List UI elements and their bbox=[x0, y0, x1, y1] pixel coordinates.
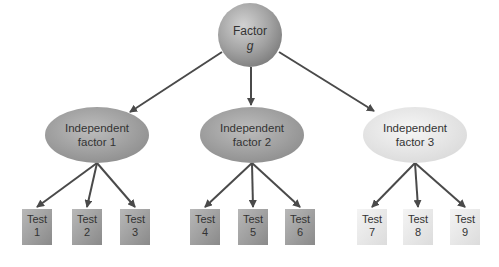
test-label-line2: 7 bbox=[369, 226, 375, 238]
factor-label-line2: factor 2 bbox=[233, 136, 271, 148]
test-label-line2: 8 bbox=[415, 226, 421, 238]
arrow-factor-3-to-test-9 bbox=[415, 163, 465, 207]
arrow-factor-3-to-test-7 bbox=[372, 163, 415, 207]
test-label-line1: Test bbox=[125, 213, 145, 225]
test-label-line2: 6 bbox=[297, 226, 303, 238]
test-label-line2: 1 bbox=[34, 226, 40, 238]
arrow-factor-1-to-test-3 bbox=[97, 163, 135, 207]
test-box-6: Test 6 bbox=[285, 209, 315, 245]
test-box-1: Test 1 bbox=[22, 209, 52, 245]
test-label-line1: Test bbox=[408, 213, 428, 225]
test-label-line1: Test bbox=[195, 213, 215, 225]
test-box-7: Test 7 bbox=[357, 209, 387, 245]
arrow-factor-2-to-test-6 bbox=[252, 163, 300, 207]
arrow-factor-2-to-test-4 bbox=[205, 163, 252, 207]
test-label-line1: Test bbox=[243, 213, 263, 225]
test-box-3: Test 3 bbox=[120, 209, 150, 245]
factor-label-line2: factor 1 bbox=[78, 136, 116, 148]
root-label-line2: g bbox=[247, 39, 254, 53]
arrow-factor-3-to-test-8 bbox=[415, 163, 418, 207]
factor-node-1: Independent factor 1 bbox=[45, 107, 149, 163]
root-node: Factor g bbox=[218, 3, 282, 67]
arrow-factor-2-to-test-5 bbox=[252, 163, 253, 207]
test-label-line1: Test bbox=[290, 213, 310, 225]
factor-node-2: Independent factor 2 bbox=[200, 107, 304, 163]
test-box-8: Test 8 bbox=[403, 209, 433, 245]
factor-label-line1: Independent bbox=[65, 122, 130, 134]
factor-hierarchy-diagram: Factor g Independent factor 1 Independen… bbox=[0, 0, 499, 267]
factor-label-line1: Independent bbox=[383, 122, 448, 134]
factor-ellipse bbox=[363, 107, 467, 163]
test-label-line2: 4 bbox=[202, 226, 208, 238]
test-box-9: Test 9 bbox=[450, 209, 480, 245]
test-label-line2: 9 bbox=[462, 226, 468, 238]
test-label-line2: 2 bbox=[84, 226, 90, 238]
test-box-4: Test 4 bbox=[190, 209, 220, 245]
test-label-line2: 5 bbox=[250, 226, 256, 238]
arrow-root-to-factor-3 bbox=[279, 52, 374, 111]
factor-node-3: Independent factor 3 bbox=[363, 107, 467, 163]
test-label-line2: 3 bbox=[132, 226, 138, 238]
factor-ellipse bbox=[200, 107, 304, 163]
factor-label-line2: factor 3 bbox=[396, 136, 434, 148]
root-label-line1: Factor bbox=[233, 24, 267, 38]
test-label-line1: Test bbox=[77, 213, 97, 225]
factor-label-line1: Independent bbox=[220, 122, 285, 134]
test-box-5: Test 5 bbox=[238, 209, 268, 245]
arrow-root-to-factor-1 bbox=[130, 52, 222, 112]
test-label-line1: Test bbox=[455, 213, 475, 225]
test-box-2: Test 2 bbox=[72, 209, 102, 245]
test-label-line1: Test bbox=[27, 213, 47, 225]
test-label-line1: Test bbox=[362, 213, 382, 225]
factor-ellipse bbox=[45, 107, 149, 163]
